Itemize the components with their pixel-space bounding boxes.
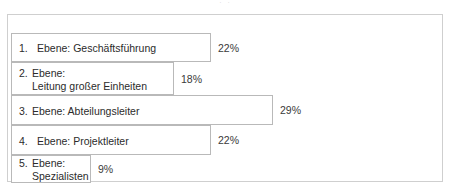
bar-category-label: 4.Ebene: Projektleiter xyxy=(19,126,129,155)
bar-label-text: Leitung großer Einheiten xyxy=(32,80,147,92)
bar-label-line: 4.Ebene: Projektleiter xyxy=(19,135,129,148)
bar-label-text: Ebene: Projektleiter xyxy=(37,135,129,147)
bar-label-line: Leitung großer Einheiten xyxy=(19,80,147,93)
bar-row: 4.Ebene: Projektleiter22% xyxy=(11,125,441,155)
bar-segment: 2.Ebene:Leitung großer Einheiten xyxy=(11,62,174,95)
bar-row: 2.Ebene:Leitung großer Einheiten18% xyxy=(11,62,441,95)
bar-chart: 1.Ebene: Geschäftsführung22%2.Ebene:Leit… xyxy=(11,24,441,183)
bar-category-label: 5.Ebene:Spezialisten xyxy=(19,156,89,183)
bar-category-label: 3.Ebene: Abteilungsleiter xyxy=(19,96,139,125)
bar-segment: 1.Ebene: Geschäftsführung xyxy=(11,33,211,62)
bar-value-label: 18% xyxy=(181,62,202,95)
bar-index: 4. xyxy=(19,135,37,148)
bar-label-line: Spezialisten xyxy=(19,170,89,183)
bar-category-label: 1.Ebene: Geschäftsführung xyxy=(19,34,156,62)
bar-index: 5. xyxy=(19,157,32,170)
scan-artifact-top: ·· xyxy=(0,0,455,9)
bar-segment: 3.Ebene: Abteilungsleiter xyxy=(11,95,273,125)
bar-index: 2. xyxy=(19,67,32,80)
bar-value-label: 22% xyxy=(218,125,239,155)
bar-row: 3.Ebene: Abteilungsleiter29% xyxy=(11,95,441,125)
bar-label-line: 5.Ebene: xyxy=(19,157,89,170)
bar-category-label: 2.Ebene:Leitung großer Einheiten xyxy=(19,63,147,95)
bar-index: 1. xyxy=(19,42,37,55)
bar-segment: 5.Ebene:Spezialisten xyxy=(11,155,91,183)
bar-value-label: 22% xyxy=(218,33,239,62)
bar-label-line: 2.Ebene: xyxy=(19,67,147,80)
bar-label-line: 1.Ebene: Geschäftsführung xyxy=(19,42,156,55)
chart-frame: 1.Ebene: Geschäftsführung22%2.Ebene:Leit… xyxy=(7,14,443,182)
bar-value-label: 29% xyxy=(280,95,301,125)
bar-label-text: Ebene: Abteilungsleiter xyxy=(32,105,139,117)
bar-row: 1.Ebene: Geschäftsführung22% xyxy=(11,33,441,62)
bar-label-text: Ebene: xyxy=(32,157,65,169)
bar-label-text: Ebene: xyxy=(32,67,65,79)
bar-label-text: Spezialisten xyxy=(32,170,89,182)
bar-segment: 4.Ebene: Projektleiter xyxy=(11,125,211,155)
bar-label-line: 3.Ebene: Abteilungsleiter xyxy=(19,105,139,118)
bar-value-label: 9% xyxy=(98,155,113,183)
bar-row: 5.Ebene:Spezialisten9% xyxy=(11,155,441,183)
bar-index: 3. xyxy=(19,105,32,118)
bar-label-text: Ebene: Geschäftsführung xyxy=(37,42,156,54)
